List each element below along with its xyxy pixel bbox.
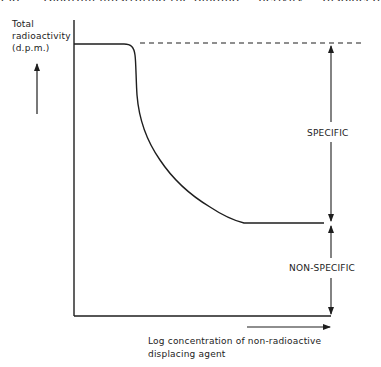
- displacement-diagram: [0, 0, 381, 367]
- y-axis-label-line-1: Total: [12, 19, 34, 30]
- y-axis-label-line-2: radioactivity: [12, 31, 71, 42]
- specific-label: SPECIFIC: [307, 128, 348, 139]
- x-axis-label-line-2: displacing agent: [148, 349, 226, 360]
- x-axis-label-line-1: Log concentration of non-radioactive: [148, 336, 321, 347]
- displacement-curve: [74, 44, 324, 223]
- y-axis-label-line-3: (d.p.m.): [12, 43, 49, 54]
- non-specific-label: NON-SPECIFIC: [289, 263, 355, 274]
